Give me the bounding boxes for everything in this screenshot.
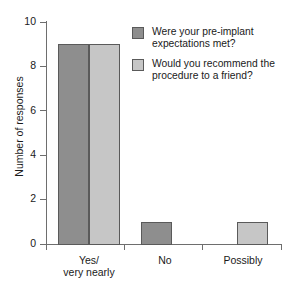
legend-label-recommend-line1: Would you recommend the [152,58,275,70]
y-tick-group-10: 10 [0,16,36,27]
x-category-label-yes-line1: Yes/ [49,254,129,266]
legend-label-expectations-line1: Were your pre-implant [152,26,254,38]
x-category-label-possibly: Possibly [205,254,281,266]
bar-no-expectations [141,222,172,245]
y-tick-label-4: 4 [0,149,36,160]
y-tick-label-8: 8 [0,60,36,71]
y-tick-group-4: 4 [0,149,36,160]
y-tick-label-0: 0 [0,238,36,249]
legend-swatch-expectations [132,27,144,39]
legend-entry-recommend: Would you recommend the procedure to a f… [132,58,290,81]
y-tick-group-2: 2 [0,193,36,204]
x-category-label-no-line1: No [127,254,203,266]
bar-yes-recommend [89,44,120,245]
bar-chart: Number of responses 10 8 6 4 2 0 Yes/ ve… [0,0,293,292]
y-tick-group-8: 8 [0,60,36,71]
x-tick-mark-start [46,244,47,250]
bar-yes-expectations [58,44,89,245]
x-category-label-no: No [127,254,203,266]
legend-swatch-recommend [132,59,144,71]
y-tick-label-6: 6 [0,105,36,116]
y-axis-line [46,21,47,245]
x-category-label-possibly-line1: Possibly [205,254,281,266]
legend-entry-expectations: Were your pre-implant expectations met? [132,26,290,49]
x-tick-mark-2 [202,244,203,250]
x-category-label-yes: Yes/ very nearly [49,254,129,278]
legend-label-expectations-line2: expectations met? [152,38,254,50]
x-tick-mark-1 [124,244,125,250]
legend-label-recommend-line2: procedure to a friend? [152,70,275,82]
y-tick-group-0: 0 [0,238,36,249]
x-category-label-yes-line2: very nearly [49,266,129,278]
y-tick-label-10: 10 [0,16,36,27]
legend-label-recommend: Would you recommend the procedure to a f… [152,58,275,81]
y-tick-group-6: 6 [0,105,36,116]
legend-label-expectations: Were your pre-implant expectations met? [152,26,254,49]
y-tick-label-2: 2 [0,193,36,204]
bar-possibly-recommend [237,222,268,245]
x-tick-mark-end [281,244,282,250]
legend: Were your pre-implant expectations met? … [132,26,290,90]
